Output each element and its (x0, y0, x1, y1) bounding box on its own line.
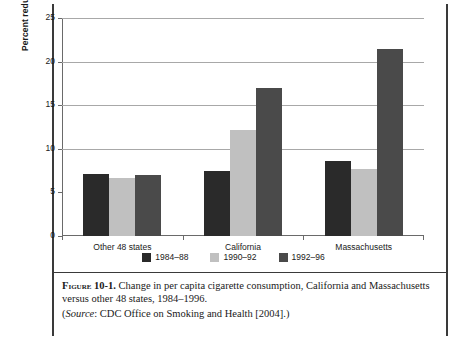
figure-source: (Source: CDC Office on Smoking and Healt… (62, 307, 440, 320)
bar (204, 171, 230, 236)
bar-chart: Percent reduction 0510152025 Other 48 st… (0, 0, 467, 272)
bar-group: California (183, 18, 304, 236)
x-tick-mark (62, 236, 63, 240)
bar (83, 174, 109, 236)
legend-swatch (210, 253, 219, 262)
x-axis-category-label: Massachusetts (335, 242, 392, 252)
figure-label: Figure (62, 280, 91, 291)
legend-label: 1990–92 (223, 252, 256, 262)
legend-item: 1984–88 (142, 252, 188, 262)
bar (325, 161, 351, 236)
source-rest: : CDC Office on Smoking and Health [2004… (94, 308, 289, 319)
plot-area: 0510152025 Other 48 statesCaliforniaMass… (62, 18, 424, 236)
legend-swatch (279, 253, 288, 262)
x-tick-mark (303, 236, 304, 240)
legend-label: 1992–96 (292, 252, 325, 262)
x-tick-mark (423, 236, 424, 240)
y-tick-label-10: 10 (36, 143, 55, 153)
y-tick-label-5: 5 (36, 186, 55, 196)
bars-layer: Other 48 statesCaliforniaMassachusetts (62, 18, 424, 236)
figure-number: 10-1. (94, 280, 116, 291)
y-tick-label-15: 15 (36, 99, 55, 109)
chart-legend: 1984–881990–921992–96 (0, 252, 467, 262)
caption-divider (54, 272, 446, 273)
x-axis-category-label: Other 48 states (93, 242, 151, 252)
bar-group: Other 48 states (62, 18, 183, 236)
caption-text: Change in per capita cigarette consumpti… (62, 280, 430, 304)
x-tick-mark (183, 236, 184, 240)
bar-group: Massachusetts (303, 18, 424, 236)
source-word: Source (66, 308, 95, 319)
legend-item: 1990–92 (210, 252, 256, 262)
figure-caption: Figure 10-1. Change in per capita cigare… (62, 279, 440, 320)
bar (351, 169, 377, 236)
x-axis-category-label: California (225, 242, 261, 252)
y-axis-label: Percent reduction (20, 0, 30, 74)
legend-item: 1992–96 (279, 252, 325, 262)
bar (135, 175, 161, 236)
bar (230, 130, 256, 236)
legend-swatch (142, 253, 151, 262)
legend-label: 1984–88 (155, 252, 188, 262)
bar (377, 49, 403, 236)
bar (256, 88, 282, 236)
y-tick-label-0: 0 (36, 230, 55, 240)
y-tick-label-20: 20 (36, 56, 55, 66)
bar (109, 178, 135, 236)
y-tick-label-25: 25 (36, 12, 55, 22)
